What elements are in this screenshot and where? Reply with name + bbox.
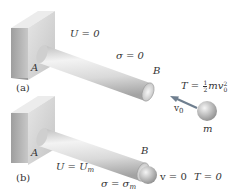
mass-ball [197,101,217,121]
sub: 0 [223,87,227,93]
kinetic-state-b: T = 0 [194,172,222,182]
frac-den: 2 [203,87,207,93]
stress-lhs: σ = σ [101,178,129,189]
kinetic-energy-label-a: T = 12mv20 [181,80,227,93]
velocity-state-b: v = 0 [160,172,187,182]
energy-label-a: U = 0 [70,29,100,39]
half-fraction: 12 [203,80,207,93]
v-sub: 0 [179,107,183,115]
mass-label: m [203,124,212,134]
energy-sub: m [88,166,95,174]
kinetic-lhs: T = [181,80,202,91]
impact-loading-diagram [0,0,236,194]
rod-b [34,126,151,182]
energy-label-b: U = Um [56,162,94,174]
kinetic-body: mv [208,80,223,91]
support-label-a: A [31,63,38,73]
support-label-b: A [31,148,38,158]
stress-sub: m [129,183,136,191]
velocity-label-a: v0 [174,104,184,115]
end-label-b: B [141,146,148,156]
caption-b: (b) [16,173,30,183]
mass-ball-impacted [139,166,157,184]
end-label-a: B [153,66,160,76]
energy-lhs: U = U [56,161,88,172]
v-sup-sub: 20 [223,81,227,93]
stress-label-b: σ = σm [101,179,136,191]
caption-a: (a) [16,83,30,93]
stress-label-a: σ = 0 [116,51,144,61]
